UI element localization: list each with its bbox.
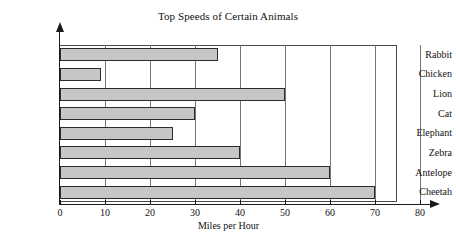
plot-area [60, 45, 397, 202]
x-tick-30 [195, 200, 196, 205]
y-label-elephant: Elephant [398, 127, 456, 138]
x-tick-label-10: 10 [90, 207, 120, 218]
x-tick-label-60: 60 [315, 207, 345, 218]
bar-elephant [60, 127, 173, 140]
bars-layer [60, 45, 397, 202]
bar-row [60, 45, 218, 65]
x-tick-label-0: 0 [45, 207, 75, 218]
x-tick-label-20: 20 [135, 207, 165, 218]
x-tick-50 [285, 200, 286, 205]
y-label-cat: Cat [398, 108, 456, 119]
bar-row [60, 104, 195, 124]
x-tick-70 [375, 200, 376, 205]
y-label-lion: Lion [398, 88, 456, 99]
x-tick-label-30: 30 [180, 207, 210, 218]
x-axis-title: Miles per Hour [60, 220, 397, 231]
x-tick-60 [330, 200, 331, 205]
x-tick-40 [240, 200, 241, 205]
x-tick-label-40: 40 [225, 207, 255, 218]
bar-lion [60, 88, 285, 101]
y-label-cheetah: Cheetah [398, 186, 456, 197]
bar-row [60, 84, 285, 104]
y-label-zebra: Zebra [398, 147, 456, 158]
bar-rabbit [60, 48, 218, 61]
x-tick-10 [105, 200, 106, 205]
bar-row [60, 182, 375, 202]
bar-chart: Top Speeds of Certain Animals 0102030405… [0, 0, 456, 241]
bar-row [60, 65, 101, 85]
x-tick-label-70: 70 [360, 207, 390, 218]
bar-cat [60, 107, 195, 120]
bar-zebra [60, 146, 240, 159]
bar-row [60, 124, 173, 144]
bar-cheetah [60, 186, 375, 199]
y-label-antelope: Antelope [398, 167, 456, 178]
y-label-chicken: Chicken [398, 68, 456, 79]
x-tick-label-50: 50 [270, 207, 300, 218]
x-tick-20 [150, 200, 151, 205]
x-tick-0 [60, 200, 61, 205]
bar-antelope [60, 166, 330, 179]
x-tick-label-80: 80 [405, 207, 435, 218]
bar-row [60, 163, 330, 183]
x-tick-80 [420, 200, 421, 205]
bar-row [60, 143, 240, 163]
y-label-rabbit: Rabbit [398, 49, 456, 60]
bar-chicken [60, 68, 101, 81]
chart-title: Top Speeds of Certain Animals [0, 10, 456, 22]
